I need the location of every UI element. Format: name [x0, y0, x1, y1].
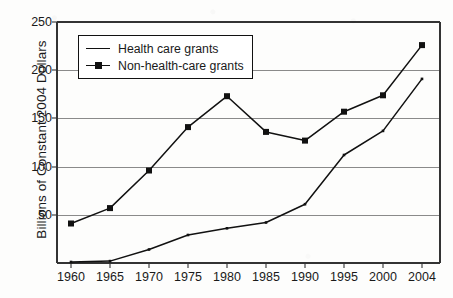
- chart-figure: Billions of Constant 2004 Dollars 250 20…: [0, 0, 453, 298]
- x-axis-tick-labels: 1960 1965 1970 1975 1980 1985 1990 1995 …: [0, 270, 453, 292]
- data-point-marker: [419, 42, 425, 48]
- data-point-marker: [146, 168, 152, 174]
- data-point-marker: [185, 124, 191, 130]
- legend-key-square-marker-line: [85, 59, 111, 73]
- data-point-marker: [224, 93, 230, 99]
- data-point-marker: [68, 221, 74, 227]
- legend-key-plain-line: [85, 42, 111, 56]
- data-point-vertex: [343, 154, 346, 157]
- data-point-marker: [380, 92, 386, 98]
- chart-legend: Health care grants Non-health-care grant…: [78, 35, 253, 79]
- legend-item-health-care-grants: Health care grants: [85, 40, 244, 57]
- x-tick-2004: 2004: [398, 270, 446, 284]
- legend-label-health-care-grants: Health care grants: [118, 42, 218, 56]
- data-point-marker: [341, 109, 347, 115]
- data-point-vertex: [187, 234, 190, 237]
- data-point-marker: [263, 129, 269, 135]
- data-point-vertex: [304, 203, 307, 206]
- data-point-vertex: [265, 221, 268, 224]
- data-point-marker: [107, 205, 113, 211]
- data-point-vertex: [148, 248, 151, 251]
- legend-item-non-health-care-grants: Non-health-care grants: [85, 57, 244, 74]
- data-point-vertex: [70, 261, 73, 264]
- y-tick-marks: [52, 22, 57, 215]
- legend-label-non-health-care-grants: Non-health-care grants: [118, 59, 244, 73]
- data-point-vertex: [109, 260, 112, 263]
- x-tick-marks: [71, 263, 422, 268]
- data-point-vertex: [382, 130, 385, 133]
- data-point-vertex: [421, 78, 424, 81]
- data-point-vertex: [226, 227, 229, 230]
- gridlines: [57, 70, 440, 215]
- series-line-1: [71, 79, 422, 262]
- data-point-marker: [302, 138, 308, 144]
